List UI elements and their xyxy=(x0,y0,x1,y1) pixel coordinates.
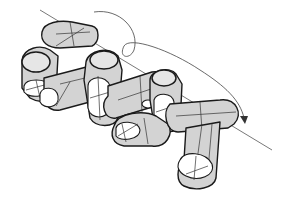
tubular-link xyxy=(42,21,98,48)
chain-illustration xyxy=(0,0,289,218)
arrow-head-icon xyxy=(240,116,248,124)
